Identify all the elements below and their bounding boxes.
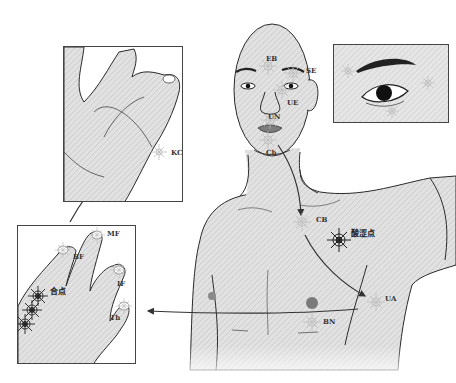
ear xyxy=(307,80,318,111)
point-label-eb: EB xyxy=(266,55,277,63)
palm-panel: KC xyxy=(63,46,183,202)
point-label-ua: UA xyxy=(385,295,396,303)
left-nipple xyxy=(208,292,216,300)
eye-illustration xyxy=(334,45,449,123)
point-label-se: SE xyxy=(306,67,316,75)
hand-illustration xyxy=(18,226,136,364)
eye-panel xyxy=(333,44,449,123)
point-label-bf: BF xyxy=(73,253,84,261)
point-label-th: Th xyxy=(110,314,120,322)
point-label-mf: MF xyxy=(107,230,120,238)
palm-illustration xyxy=(64,47,183,202)
point-label-ue: UE xyxy=(287,99,298,107)
point-label-if: IF xyxy=(117,280,125,288)
point-label-he: 合点 xyxy=(50,288,66,296)
point-label-bn: BN xyxy=(323,318,335,326)
hand-panel: BF MF IF Th 合点 xyxy=(17,225,136,364)
point-label-un: UN xyxy=(268,113,281,121)
right-nipple xyxy=(306,297,318,309)
point-label-cb: CB xyxy=(316,216,328,224)
point-label-sour: 酸涩点 xyxy=(351,230,375,238)
point-label-kc: KC xyxy=(171,149,182,157)
torso-shape xyxy=(190,170,456,370)
point-label-ch: Ch xyxy=(266,149,277,157)
diagram-stage: EB SE UE UN Ch CB 酸涩点 UA BN KC xyxy=(0,0,456,383)
